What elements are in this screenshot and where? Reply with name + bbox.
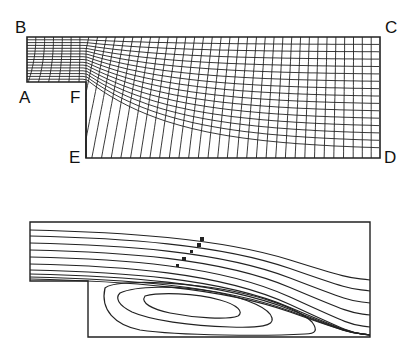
label-d: D [384,148,396,167]
streamline-panel [30,222,370,337]
label-f: F [70,88,80,107]
label-a: A [19,88,31,107]
label-b: B [15,18,26,37]
label-c: C [385,18,397,37]
figure-canvas: B C A F E D [0,0,413,361]
label-e: E [69,148,80,167]
